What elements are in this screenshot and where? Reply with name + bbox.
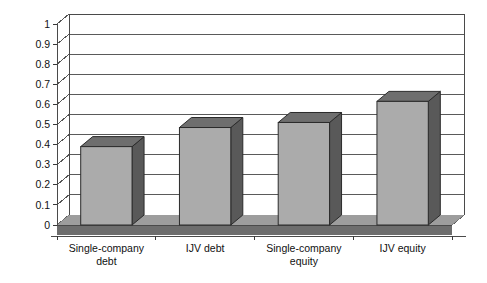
gridline-depth-6 (57, 135, 69, 145)
gridline-depth-5 (57, 115, 69, 125)
x-category-label-1-line-0: IJV debt (186, 242, 225, 254)
bar-side-face-1 (231, 118, 243, 225)
x-category-label-0-line-1: debt (96, 255, 117, 267)
bar-side-face-2 (330, 112, 342, 225)
y-tick-label-1: 0.9 (35, 38, 50, 50)
bar-0[interactable] (81, 137, 144, 225)
bar-2[interactable] (278, 112, 341, 225)
bar-side-face-0 (132, 137, 144, 225)
bar-front-face-2 (278, 122, 329, 225)
x-axis-ticks (57, 236, 452, 240)
gridline-depth-0 (57, 14, 69, 24)
gridline-depth-3 (57, 74, 69, 84)
bar-top-face-0 (81, 137, 144, 147)
bar-3[interactable] (377, 91, 440, 225)
x-category-label-2-line-0: Single-company (266, 242, 342, 254)
y-tick-label-10: 0 (44, 219, 50, 231)
bar-top-face-3 (377, 91, 440, 101)
y-tick-label-2: 0.8 (35, 58, 50, 70)
bar-front-face-3 (377, 101, 428, 225)
bar-top-face-2 (278, 112, 341, 122)
gridline-depth-7 (57, 155, 69, 165)
bar-top-face-1 (179, 118, 242, 128)
y-axis-labels: 10.90.80.70.60.50.40.30.20.10 (35, 18, 57, 231)
x-category-label-2-line-1: equity (290, 255, 319, 267)
chart-floor-front (57, 225, 452, 235)
y-tick-label-5: 0.5 (35, 118, 50, 130)
y-tick-label-3: 0.7 (35, 78, 50, 90)
y-tick-label-7: 0.3 (35, 158, 50, 170)
bar-side-face-3 (428, 91, 440, 225)
y-tick-label-4: 0.6 (35, 98, 50, 110)
gridline-depth-2 (57, 54, 69, 64)
y-tick-label-6: 0.4 (35, 138, 50, 150)
y-tick-label-0: 1 (44, 18, 50, 30)
chart-container: 10.90.80.70.60.50.40.30.20.10Single-comp… (0, 0, 487, 283)
y-tick-label-9: 0.1 (35, 199, 50, 211)
gridline-depth-1 (57, 34, 69, 44)
x-category-label-0-line-0: Single-company (69, 242, 145, 254)
bar-1[interactable] (179, 118, 242, 225)
gridline-depth-4 (57, 94, 69, 104)
x-category-label-3-line-0: IJV equity (380, 242, 427, 254)
gridline-depth-8 (57, 175, 69, 185)
x-axis-labels: Single-companydebtIJV debtSingle-company… (69, 242, 427, 267)
bar-chart-3d: 10.90.80.70.60.50.40.30.20.10Single-comp… (0, 0, 487, 283)
gridline-depth-9 (57, 195, 69, 205)
bar-front-face-1 (179, 128, 230, 225)
y-tick-label-8: 0.2 (35, 178, 50, 190)
bar-front-face-0 (81, 147, 132, 225)
